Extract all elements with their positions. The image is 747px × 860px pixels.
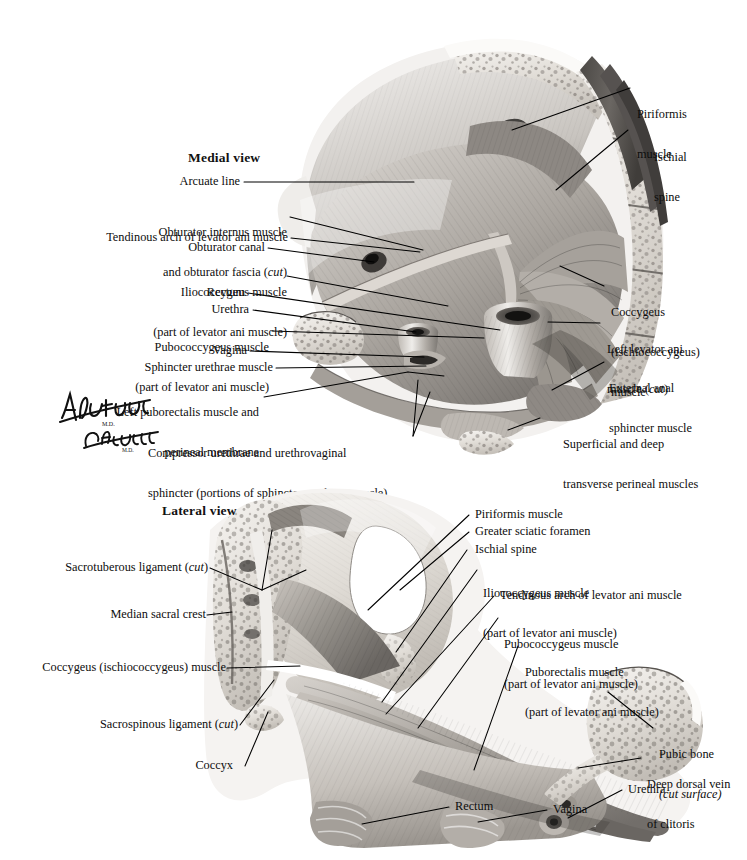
- label-line-1: Compressor urethrae and urethrovaginal: [148, 447, 387, 460]
- label-line-2: of clitoris: [647, 818, 730, 831]
- lateral-label-rectum: Rectum: [455, 800, 493, 813]
- lateral-label-puborectalis: Puborectalis muscle (part of levator ani…: [525, 639, 659, 746]
- lateral-label-deep-dorsal-vein: Deep dorsal vein of clitoris: [647, 751, 730, 858]
- label-line-2: (part of levator ani muscle): [525, 706, 659, 719]
- lateral-label-sacrotuberous-ligament: Sacrotuberous ligament (cut): [65, 561, 208, 574]
- lateral-label-median-sacral-crest: Median sacral crest: [110, 608, 206, 621]
- lateral-label-piriformis: Piriformis muscle: [475, 508, 563, 521]
- svg-text:M.D.: M.D.: [122, 447, 134, 453]
- medial-label-obturator-canal: Obturator canal: [188, 241, 265, 254]
- label-line-1: Pubococcygeus muscle: [135, 341, 269, 354]
- lateral-view-panel: Lateral view: [0, 470, 747, 860]
- lateral-label-coccyx: Coccyx: [195, 759, 233, 772]
- lateral-label-sacrospinous-ligament: Sacrospinous ligament (cut): [100, 718, 238, 731]
- medial-label-ischial-spine: Ischial spine: [654, 124, 687, 231]
- label-line-1: Puborectalis muscle: [525, 666, 659, 679]
- label-line-1: Ischial: [654, 151, 687, 164]
- artist-signature: M.D. M.D.: [58, 388, 178, 454]
- label-line-1: Piriformis: [637, 108, 687, 121]
- lateral-label-greater-sciatic-foramen: Greater sciatic foramen: [475, 525, 590, 538]
- label-line-1: Superficial and deep: [563, 438, 698, 451]
- medial-label-sphincter-urethrae: Sphincter urethrae muscle: [145, 361, 273, 374]
- medial-label-rectum: Rectum: [207, 286, 245, 299]
- lateral-label-vagina: Vagina: [553, 803, 587, 816]
- lateral-label-ischial-spine: Ischial spine: [475, 543, 537, 556]
- medial-label-vagina: Vagina: [213, 344, 247, 357]
- lateral-label-coccygeus: Coccygeus (ischiococcygeus) muscle: [42, 661, 226, 674]
- label-line-2: spine: [654, 191, 687, 204]
- svg-text:M.D.: M.D.: [102, 421, 115, 427]
- lateral-label-urethra: Urethra: [628, 783, 666, 796]
- label-line-1: External anal: [609, 382, 692, 395]
- medial-view-panel: Medial view: [0, 0, 747, 470]
- medial-label-arcuate-line: Arcuate line: [180, 175, 240, 188]
- lateral-label-tendinous-arch: Tendinous arch of levator ani muscle: [500, 589, 682, 602]
